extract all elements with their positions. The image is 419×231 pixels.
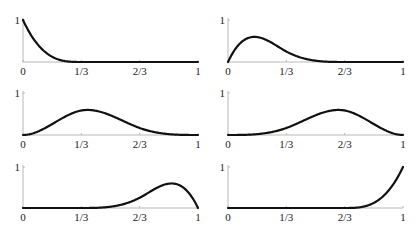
x-tick-label: 2/3: [338, 65, 353, 77]
x-tick-label: 0: [20, 211, 26, 223]
basis-curve-N5: [228, 167, 403, 208]
bspline-basis-chart: 101/32/31101/32/31101/32/31101/32/31101/…: [0, 0, 419, 231]
x-tick-label: 2/3: [338, 138, 353, 150]
y-tick-label: 1: [220, 14, 226, 26]
x-tick-label: 2/3: [133, 211, 148, 223]
x-tick-label: 0: [225, 65, 231, 77]
panel-N0: 101/32/31: [15, 14, 201, 77]
x-tick-label: 1/3: [279, 65, 294, 77]
y-tick-label: 1: [220, 161, 226, 173]
panel-N1: 101/32/31: [220, 14, 406, 77]
x-tick-label: 0: [225, 211, 231, 223]
x-tick-label: 1/3: [279, 211, 294, 223]
x-tick-label: 0: [225, 138, 231, 150]
y-tick-label: 1: [15, 87, 21, 99]
x-tick-label: 2/3: [338, 211, 353, 223]
x-tick-label: 1: [400, 138, 406, 150]
x-tick-label: 1/3: [279, 138, 294, 150]
y-tick-label: 1: [220, 87, 226, 99]
basis-curve-N2: [23, 110, 198, 135]
y-tick-label: 1: [15, 161, 21, 173]
x-tick-label: 0: [20, 138, 26, 150]
x-tick-label: 1: [195, 211, 201, 223]
basis-curve-N1: [228, 37, 403, 62]
panel-N5: 101/32/31: [220, 161, 406, 223]
x-tick-label: 2/3: [133, 65, 148, 77]
panel-N3: 101/32/31: [220, 87, 406, 150]
x-tick-label: 1: [195, 138, 201, 150]
basis-curve-N3: [228, 110, 403, 135]
x-tick-label: 0: [20, 65, 26, 77]
panel-N2: 101/32/31: [15, 87, 201, 150]
x-tick-label: 1/3: [74, 211, 89, 223]
basis-curve-N0: [23, 20, 198, 62]
x-tick-label: 1/3: [74, 65, 89, 77]
x-tick-label: 2/3: [133, 138, 148, 150]
panel-N4: 101/32/31: [15, 161, 201, 223]
x-tick-label: 1: [195, 65, 201, 77]
x-tick-label: 1: [400, 211, 406, 223]
y-tick-label: 1: [15, 14, 21, 26]
x-tick-label: 1/3: [74, 138, 89, 150]
x-tick-label: 1: [400, 65, 406, 77]
basis-curve-N4: [23, 183, 198, 208]
